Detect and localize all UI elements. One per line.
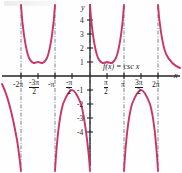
tick-x-pi: π — [121, 81, 125, 89]
tick-x-neg-2pi: -2π — [13, 81, 23, 89]
tick-y-neg2: -2 — [77, 101, 83, 109]
tick-x-pi-over-2: π 2 — [104, 78, 108, 96]
tick-y-neg3: -3 — [77, 115, 83, 123]
tick-y-neg4: -4 — [77, 129, 83, 137]
fraction-numerator: π — [104, 79, 108, 87]
tick-x-2pi: 2π — [152, 81, 160, 89]
fraction-numerator: 3π — [135, 79, 143, 87]
tick-y-neg1: -1 — [77, 87, 83, 95]
fraction-denominator: 2 — [66, 87, 72, 96]
csc-branch-neg2pi-negpi — [21, 5, 55, 63]
fraction-numerator: -π — [66, 79, 72, 87]
y-axis-label: y — [81, 4, 85, 12]
fraction-numerator: -3π — [29, 79, 39, 87]
csc-branch-pi-2pi — [124, 90, 158, 171]
cosecant-graph-figure: y x f(x) = csc x 4 3 2 1 -1 -2 -3 -4 -2π… — [0, 0, 182, 173]
tick-y-2: 2 — [80, 45, 84, 53]
tick-x-3pi-over-2: 3π 2 — [135, 78, 143, 96]
tick-x-neg-pi-over-2: -π 2 — [66, 78, 72, 96]
csc-branch-negpi-0 — [55, 90, 90, 171]
tick-y-3: 3 — [80, 31, 84, 39]
fraction-denominator: 2 — [135, 87, 143, 96]
fraction-denominator: 2 — [29, 87, 39, 96]
tick-y-4: 4 — [80, 17, 84, 25]
tick-y-1: 1 — [80, 59, 84, 67]
csc-branch-right-edge — [158, 5, 180, 68]
fraction-denominator: 2 — [104, 87, 108, 96]
tick-x-neg-3pi-over-2: -3π 2 — [29, 78, 39, 96]
tick-x-neg-pi: -π — [48, 81, 54, 89]
x-axis-label: x — [174, 72, 178, 80]
function-label: f(x) = csc x — [103, 63, 139, 71]
csc-branch-left-edge — [2, 84, 21, 171]
csc-branch-0-pi — [90, 5, 124, 63]
